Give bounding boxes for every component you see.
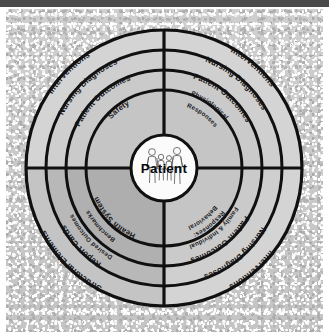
ring-diagram: Patient Interventions Interventions Stru… — [0, 0, 329, 334]
diagram-canvas: Patient Interventions Interventions Stru… — [0, 0, 329, 334]
center-label: Patient — [141, 161, 188, 176]
